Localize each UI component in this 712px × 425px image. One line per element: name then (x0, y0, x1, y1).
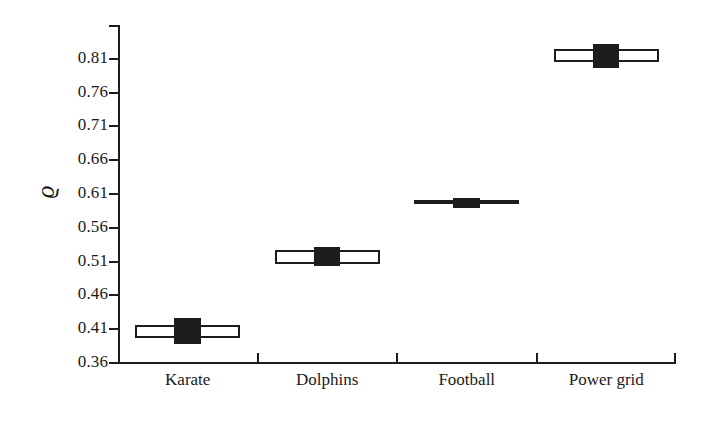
y-tick-label: 0.76 (52, 82, 108, 102)
y-tick (109, 261, 118, 263)
x-tick (396, 353, 398, 362)
y-tick-label: 0.66 (52, 149, 108, 169)
y-tick-label: 0.61 (52, 183, 108, 203)
y-tick (109, 362, 118, 364)
y-tick-label: 0.71 (52, 115, 108, 135)
x-tick-right-end (674, 353, 676, 362)
y-tick (109, 227, 118, 229)
x-axis-line (118, 362, 676, 364)
y-tick-label: 0.56 (52, 217, 108, 237)
x-tick (257, 353, 259, 362)
y-tick (109, 159, 118, 161)
y-tick-label: 0.51 (52, 251, 108, 271)
y-tick (109, 125, 118, 127)
y-tick (109, 294, 118, 296)
y-tick (109, 92, 118, 94)
median-marker (453, 198, 480, 207)
median-marker (593, 44, 620, 68)
y-tick (109, 193, 118, 195)
x-tick-label: Dolphins (258, 370, 398, 390)
y-axis-line (118, 25, 120, 364)
y-tick (109, 328, 118, 330)
x-tick (536, 353, 538, 362)
y-tick-label: 0.41 (52, 318, 108, 338)
x-tick-label: Power grid (537, 370, 677, 390)
median-marker (314, 247, 341, 266)
chart-canvas: ϱ 0.360.410.460.510.560.610.660.710.760.… (0, 0, 712, 425)
y-tick-label: 0.81 (52, 48, 108, 68)
median-marker (174, 318, 201, 344)
x-tick-label: Football (397, 370, 537, 390)
y-tick-label: 0.46 (52, 284, 108, 304)
y-tick (109, 58, 118, 60)
y-tick-label: 0.36 (52, 352, 108, 372)
y-tick-top (109, 25, 118, 27)
x-tick-label: Karate (118, 370, 258, 390)
